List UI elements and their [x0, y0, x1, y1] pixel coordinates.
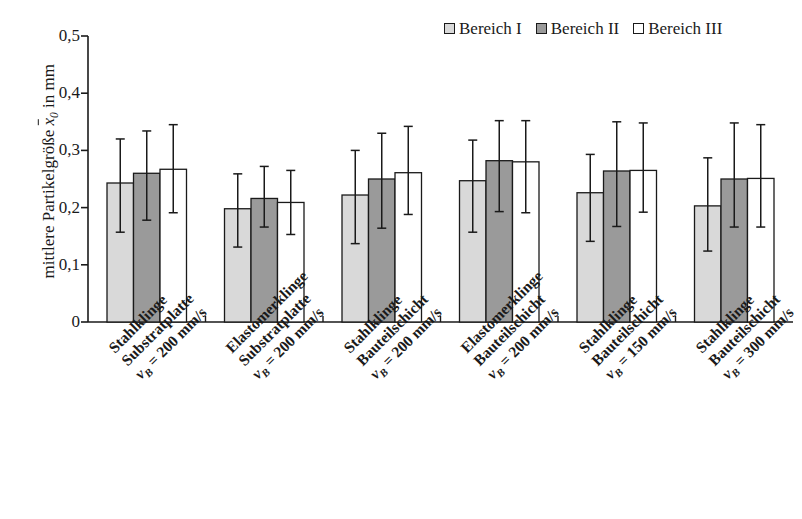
plot-area	[0, 0, 802, 519]
bar-chart: Bereich I Bereich II Bereich III mittler…	[0, 0, 802, 519]
